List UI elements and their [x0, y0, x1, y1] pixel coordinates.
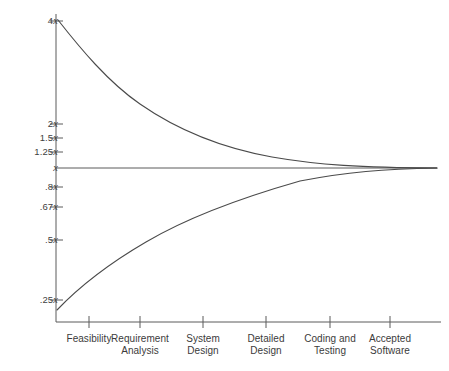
y-tick-symbol-1-25x: x	[53, 146, 58, 157]
y-tick-symbol-2x: x	[53, 118, 58, 129]
y-tick-symbol-x: x	[53, 162, 58, 173]
y-tick-symbol-0-8x: x	[53, 181, 58, 192]
x-tick-label-accepted-software: Accepted Software	[340, 333, 440, 356]
y-tick-symbol-0-5x: x	[53, 234, 58, 245]
y-tick-label-2x: 2x	[48, 119, 58, 129]
y-tick-symbol-1-5x: x	[53, 132, 58, 143]
y-tick-label-1-5x: 1.5x	[40, 133, 58, 143]
y-tick-label-0-5x: .5x	[45, 235, 58, 245]
y-tick-label-1-25x: 1.25x	[34, 147, 58, 157]
y-tick-value-1-25x: 1.25	[34, 146, 53, 157]
y-tick-label-0-8x: .8x	[45, 182, 58, 192]
y-tick-value-0-67x: .67	[40, 201, 54, 212]
chart-canvas	[0, 0, 449, 371]
y-tick-label-0-67x: .67x	[40, 202, 58, 212]
y-tick-label-x: x	[53, 163, 58, 173]
cone-of-uncertainty-chart: 4x 2x 1.5x 1.25x x .8x .67x .5x .25x Fea…	[0, 0, 449, 371]
upper-bound-curve	[58, 20, 437, 168]
y-tick-symbol-0-67x: x	[53, 201, 58, 212]
y-tick-value-0-25x: .25	[40, 294, 54, 305]
lower-bound-curve	[57, 168, 437, 310]
y-tick-symbol-4x: x	[53, 15, 58, 26]
y-tick-value-1-5x: 1.5	[40, 132, 54, 143]
y-tick-label-4x: 4x	[48, 16, 58, 26]
y-tick-symbol-0-25x: x	[53, 294, 58, 305]
y-tick-label-0-25x: .25x	[40, 295, 58, 305]
